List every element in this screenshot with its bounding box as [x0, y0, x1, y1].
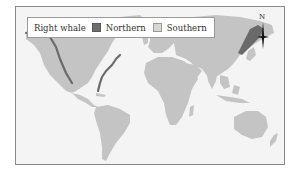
legend-swatch-northern: [92, 23, 101, 32]
legend-title: Right whale: [34, 23, 86, 33]
south-america: [94, 105, 130, 161]
compass: N: [255, 13, 271, 51]
legend-swatch-southern: [153, 23, 162, 32]
central-america: [72, 93, 98, 107]
legend-label-northern: Northern: [106, 23, 146, 33]
north-arrow-icon: [255, 13, 271, 51]
legend-label-southern: Southern: [167, 23, 207, 33]
map-legend: Right whale Northern Southern: [27, 17, 215, 38]
map-frame: Right whale Northern Southern N: [15, 6, 285, 165]
australia: [234, 111, 268, 139]
